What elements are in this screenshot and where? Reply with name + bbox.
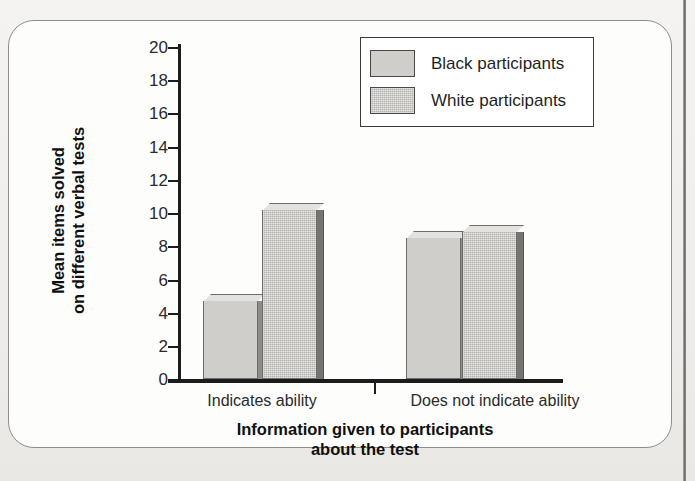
bar-front-face	[406, 238, 461, 379]
y-tick-label-8: 8	[134, 237, 168, 257]
bar-front-face	[462, 232, 517, 379]
bar-black-participants-indicates-ability	[203, 294, 265, 379]
x-axis-title: Information given to participants about …	[140, 419, 590, 459]
y-tick-16	[168, 113, 179, 115]
x-axis-group-tick	[374, 383, 376, 394]
y-tick-20	[168, 47, 179, 49]
y-tick-label-20: 20	[134, 38, 168, 58]
y-tick-14	[168, 147, 179, 149]
legend-swatch-black-participants	[370, 50, 415, 77]
bar-front-face	[203, 301, 258, 379]
y-tick-label-16: 16	[134, 104, 168, 124]
y-tick-0	[168, 379, 179, 381]
x-axis-line	[168, 379, 563, 383]
x-category-label-does-not-indicate-ability: Does not indicate ability	[385, 392, 605, 410]
bar-white-participants-does-not-indicate-ability	[462, 225, 524, 379]
legend-label-black-participants: Black participants	[431, 54, 564, 74]
y-tick-6	[168, 280, 179, 282]
y-axis-title-line1: Mean items solved	[48, 100, 68, 340]
bar-front-face	[262, 210, 317, 379]
y-tick-2	[168, 346, 179, 348]
y-tick-label-12: 12	[134, 171, 168, 191]
legend-row-white-participants: White participants	[370, 82, 584, 119]
y-tick-label-2: 2	[134, 337, 168, 357]
y-tick-12	[168, 180, 179, 182]
chart-legend: Black participants White participants	[360, 37, 594, 127]
bar-chart-plot: 0 2 4 6 8 10 12 14 16	[0, 0, 695, 481]
y-tick-label-14: 14	[134, 138, 168, 158]
bar-black-participants-does-not-indicate-ability	[406, 231, 468, 379]
y-tick-label-4: 4	[134, 304, 168, 324]
legend-swatch-white-participants	[370, 87, 415, 114]
bar-white-participants-indicates-ability	[262, 203, 324, 379]
y-tick-label-6: 6	[134, 271, 168, 291]
chart-screenshot: 0 2 4 6 8 10 12 14 16	[0, 0, 695, 481]
y-tick-label-10: 10	[134, 204, 168, 224]
y-tick-label-0: 0	[134, 370, 168, 390]
x-axis-title-line1: Information given to participants	[140, 419, 590, 439]
x-axis-title-line2: about the test	[140, 439, 590, 459]
x-category-label-indicates-ability: Indicates ability	[182, 392, 342, 410]
y-axis-title-line2: on different verbal tests	[68, 100, 88, 340]
y-tick-label-18: 18	[134, 71, 168, 91]
y-tick-8	[168, 246, 179, 248]
y-axis-title: Mean items solved on different verbal te…	[48, 100, 89, 340]
legend-label-white-participants: White participants	[431, 91, 566, 111]
y-tick-10	[168, 213, 179, 215]
legend-row-black-participants: Black participants	[370, 45, 584, 82]
y-tick-18	[168, 80, 179, 82]
y-tick-4	[168, 313, 179, 315]
